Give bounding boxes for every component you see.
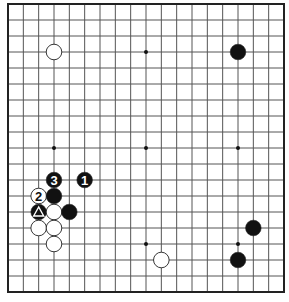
move-number-label: 2 [35,189,42,204]
star-point [144,50,148,54]
white-stone [154,252,170,268]
white-stone [46,236,62,252]
white-stone [31,220,47,236]
star-point [144,146,148,150]
white-stone: 2 [31,188,47,204]
black-stone: 3 [46,172,62,188]
star-point [52,146,56,150]
star-point [144,242,148,246]
black-stone [46,188,62,204]
black-stone: 1 [77,172,93,188]
move-number-label: 3 [50,173,57,188]
go-board: 123 [0,0,289,302]
black-stone [246,220,262,236]
star-point [236,146,240,150]
white-stone [46,220,62,236]
black-stone [31,204,47,220]
white-stone [46,204,62,220]
black-stone [230,252,246,268]
black-stone [62,204,78,220]
star-point [236,242,240,246]
black-stone [230,44,246,60]
move-number-label: 1 [81,173,88,188]
white-stone [46,44,62,60]
